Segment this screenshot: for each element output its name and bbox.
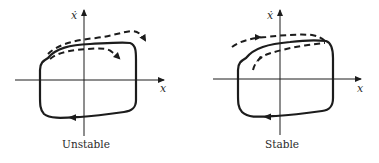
- panel-stable: ẋ x Stable: [213, 9, 364, 150]
- x-axis-label: x: [357, 82, 364, 95]
- caption-stable: Stable: [265, 138, 299, 150]
- y-axis-label: ẋ: [267, 9, 274, 22]
- direction-arrow-icon: [68, 114, 76, 121]
- trajectory-arrow-icon: [256, 56, 263, 62]
- panel-unstable: ẋ x Unstable: [15, 9, 167, 150]
- direction-arrow-icon: [263, 113, 271, 120]
- caption-unstable: Unstable: [62, 138, 110, 150]
- trajectory-arrow-icon: [255, 34, 262, 41]
- limit-cycle-figure: ẋ x Unstable ẋ x Stable: [0, 0, 379, 163]
- y-axis-label: ẋ: [71, 9, 78, 22]
- x-axis-label: x: [160, 82, 167, 95]
